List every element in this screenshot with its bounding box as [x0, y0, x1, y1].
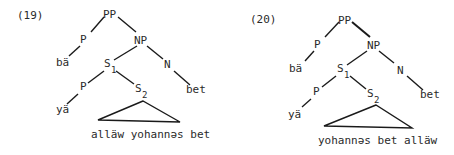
node-np: NP [367, 39, 381, 52]
edge-pp-p [325, 22, 339, 37]
edge-np-n [379, 51, 394, 63]
node-s1: S [337, 62, 344, 75]
node-ya: yä [56, 103, 69, 116]
edge-np-s1 [114, 46, 137, 60]
node-ba: bä [56, 56, 69, 69]
node-np: NP [134, 34, 148, 47]
edge-p-ba [305, 51, 314, 61]
node-s1-subscript: 1 [111, 65, 116, 75]
node-s2: S [135, 82, 142, 95]
node-ya: yä [288, 108, 301, 121]
node-s1: S [104, 57, 111, 70]
node-s1-subscript: 1 [344, 70, 349, 80]
edge-s1-p [88, 71, 104, 83]
triangle-text: yohannəs bet alläw [318, 134, 438, 147]
node-ba: bä [289, 62, 302, 75]
node-n: N [397, 64, 404, 77]
edge-p-ya [302, 99, 311, 107]
edge-np-s1 [347, 51, 367, 65]
edge-s1-p [322, 76, 336, 87]
edge-np-n [147, 46, 163, 59]
triangle-s2 [324, 105, 412, 128]
triangle-s2 [98, 101, 180, 122]
node-p2: P [313, 85, 320, 98]
example-number: (20) [250, 13, 277, 26]
node-bet: bet [186, 83, 206, 96]
node-bet: bet [420, 88, 440, 101]
edge-s1-s2 [116, 71, 134, 84]
node-s2-subscript: 2 [374, 95, 379, 105]
edge-pp-np [352, 22, 370, 37]
node-p: P [314, 38, 321, 51]
node-s2: S [367, 87, 374, 100]
triangle-text: alläw yohannəs bet [91, 128, 210, 141]
node-n: N [164, 58, 171, 71]
example-number: (19) [17, 9, 44, 22]
node-p2: P [80, 80, 87, 93]
edge-s1-s2 [350, 76, 366, 89]
edge-pp-np [118, 17, 136, 32]
node-s2-subscript: 2 [142, 90, 147, 100]
node-p: P [80, 33, 87, 46]
tree-19: (19) PP P bä NP S 1 N P yä S 2 bet alläw… [17, 8, 210, 141]
node-pp: PP [338, 14, 352, 27]
edge-p-ba [69, 46, 80, 56]
tree-20: (20) PP P bä NP S 1 N P yä S 2 bet yohan… [250, 13, 440, 147]
syntax-trees-figure: (19) PP P bä NP S 1 N P yä S 2 bet alläw… [0, 0, 454, 155]
node-pp: PP [103, 8, 117, 21]
